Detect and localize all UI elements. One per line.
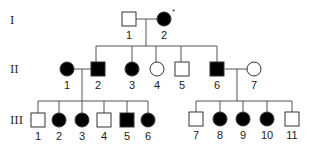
- individual-ii-5: 5: [175, 62, 189, 91]
- male-unaffected-icon: [122, 12, 136, 26]
- female-affected-icon: [60, 62, 74, 76]
- individual-iii-11: 11: [285, 112, 299, 141]
- individual-ii-4: 4: [150, 62, 164, 91]
- generation-labels: IIIIII: [10, 14, 23, 127]
- proband-marker: *: [172, 7, 175, 16]
- individual-number: 9: [240, 129, 246, 141]
- individual-number: 1: [64, 79, 70, 91]
- male-affected-icon: [120, 113, 134, 127]
- female-affected-icon: [157, 12, 171, 26]
- female-unaffected-icon: [150, 62, 164, 76]
- individual-number: 4: [154, 79, 160, 91]
- individual-number: 2: [56, 130, 62, 142]
- individual-i-1: 1: [122, 12, 136, 41]
- individual-iii-5: 5: [120, 113, 134, 142]
- individual-number: 11: [286, 129, 297, 141]
- individual-i-2: 2*: [157, 7, 175, 41]
- generation-label: I: [10, 14, 14, 27]
- individual-iii-8: 8: [213, 112, 227, 141]
- individual-iii-4: 4: [97, 113, 111, 142]
- individual-number: 2: [161, 29, 167, 41]
- individual-iii-9: 9: [236, 112, 250, 141]
- individual-iii-7: 7: [189, 112, 203, 141]
- female-unaffected-icon: [247, 62, 261, 76]
- female-affected-icon: [125, 62, 139, 76]
- individual-number: 5: [179, 79, 185, 91]
- individual-ii-7: 7: [247, 62, 261, 91]
- male-affected-icon: [91, 62, 105, 76]
- pedigree-chart: IIIIII 12*12345671234567891011: [0, 0, 309, 147]
- individual-number: 2: [95, 79, 101, 91]
- individual-iii-3: 3: [75, 113, 89, 142]
- male-unaffected-icon: [31, 113, 45, 127]
- female-affected-icon: [75, 113, 89, 127]
- female-affected-icon: [141, 113, 155, 127]
- individual-number: 5: [124, 130, 130, 142]
- female-affected-icon: [52, 113, 66, 127]
- individual-number: 1: [35, 130, 41, 142]
- female-affected-icon: [260, 112, 274, 126]
- individual-number: 7: [193, 129, 199, 141]
- individual-iii-1: 1: [31, 113, 45, 142]
- female-affected-icon: [236, 112, 250, 126]
- female-affected-icon: [213, 112, 227, 126]
- male-affected-icon: [210, 62, 224, 76]
- individual-ii-2: 2: [91, 62, 105, 91]
- individual-number: 6: [145, 130, 151, 142]
- individuals: 12*12345671234567891011: [31, 7, 299, 142]
- generation-label: II: [10, 63, 19, 76]
- male-unaffected-icon: [189, 112, 203, 126]
- individual-number: 3: [129, 79, 135, 91]
- individual-ii-1: 1: [60, 62, 74, 91]
- male-unaffected-icon: [175, 62, 189, 76]
- individual-ii-6: 6: [210, 62, 224, 91]
- individual-number: 4: [101, 130, 107, 142]
- individual-iii-2: 2: [52, 113, 66, 142]
- male-unaffected-icon: [97, 113, 111, 127]
- individual-iii-6: 6: [141, 113, 155, 142]
- generation-label: III: [10, 114, 23, 127]
- individual-ii-3: 3: [125, 62, 139, 91]
- individual-number: 1: [126, 29, 132, 41]
- individual-number: 8: [217, 129, 223, 141]
- individual-iii-10: 10: [260, 112, 274, 141]
- male-unaffected-icon: [285, 112, 299, 126]
- individual-number: 10: [261, 129, 273, 141]
- individual-number: 7: [251, 79, 257, 91]
- individual-number: 3: [79, 130, 85, 142]
- individual-number: 6: [214, 79, 220, 91]
